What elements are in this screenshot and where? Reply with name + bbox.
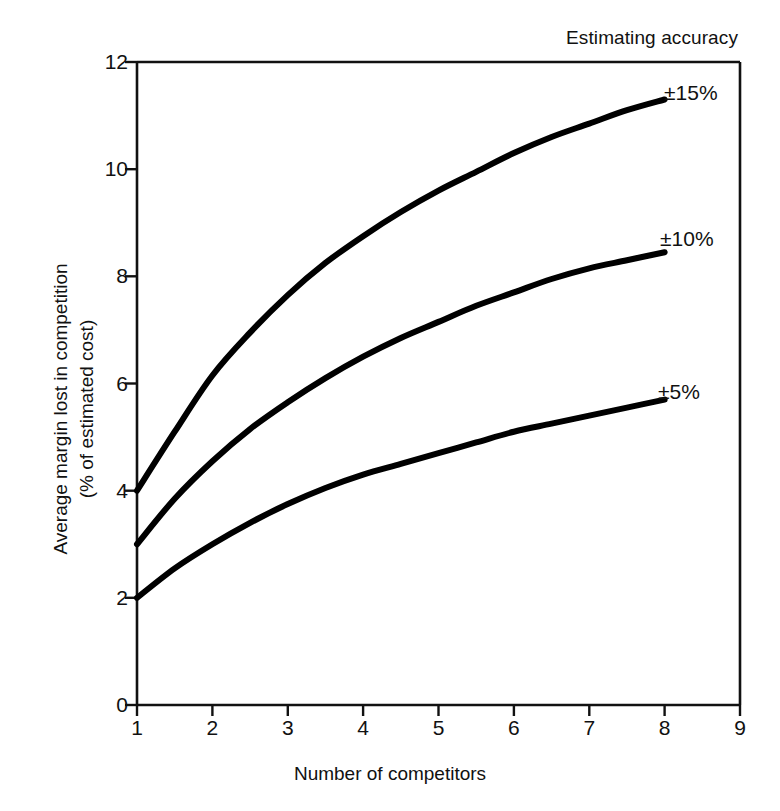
y-axis-title: Average margin lost in competition (% of… [48, 129, 100, 689]
series-line-3 [137, 400, 665, 598]
x-tick-label-7: 7 [583, 716, 595, 740]
x-tick-label-8: 8 [659, 716, 671, 740]
x-axis-ticks [137, 705, 740, 716]
x-axis-title: Number of competitors [0, 763, 780, 785]
series-label-plus-minus-5-percent: ±5% [658, 380, 700, 404]
series-line-2 [137, 252, 665, 544]
series-label-plus-minus-10-percent: ±10% [660, 227, 714, 251]
series-line-1 [137, 100, 665, 491]
x-tick-label-5: 5 [433, 716, 445, 740]
plot-frame [137, 62, 740, 705]
y-tick-label-0: 0 [88, 693, 128, 717]
x-tick-label-6: 6 [508, 716, 520, 740]
chart-figure: Estimating accuracy 0 2 4 6 8 10 12 1 2 … [0, 0, 780, 811]
x-tick-label-1: 1 [131, 716, 143, 740]
y-axis-title-line-1: Average margin lost in competition [48, 129, 74, 689]
data-series-layer [137, 100, 665, 598]
series-label-plus-minus-15-percent: ±15% [664, 81, 718, 105]
y-tick-label-12: 12 [88, 50, 128, 74]
y-axis-title-line-2: (% of estimated cost) [74, 129, 100, 689]
chart-title: Estimating accuracy [566, 27, 738, 49]
x-tick-label-3: 3 [282, 716, 294, 740]
x-tick-label-2: 2 [207, 716, 219, 740]
x-tick-label-4: 4 [357, 716, 369, 740]
x-tick-label-9: 9 [734, 716, 746, 740]
